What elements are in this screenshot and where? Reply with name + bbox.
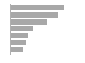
plot-area <box>0 0 85 63</box>
bar-5 <box>11 33 28 38</box>
bar-6 <box>11 40 26 45</box>
bar-chart <box>0 0 85 63</box>
bar-1 <box>11 5 64 10</box>
bar-7 <box>11 47 23 52</box>
bar-2 <box>11 12 58 18</box>
bar-3 <box>11 19 47 25</box>
bar-4 <box>11 26 33 31</box>
